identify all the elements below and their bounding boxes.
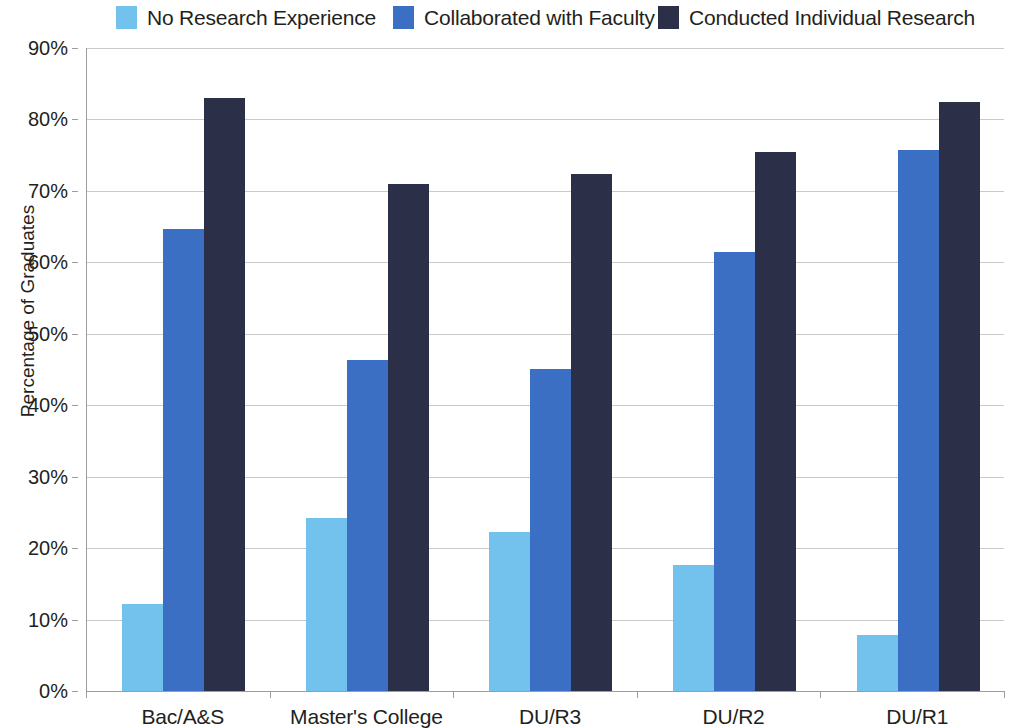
x-axis: Bac/A&SMaster's CollegeDU/R3DU/R2DU/R1 xyxy=(86,691,1004,728)
legend-item-0[interactable]: No Research Experience xyxy=(116,6,376,29)
legend-item-1[interactable]: Collaborated with Faculty xyxy=(393,6,655,29)
bar-0-1[interactable] xyxy=(163,229,204,691)
bar-1-2[interactable] xyxy=(388,184,429,691)
x-tick-mark-0 xyxy=(86,691,87,698)
legend-label-2: Conducted Individual Research xyxy=(689,6,975,29)
x-tick-mark-4 xyxy=(820,691,821,698)
bar-2-0[interactable] xyxy=(489,532,530,691)
legend-label-1: Collaborated with Faculty xyxy=(424,6,655,29)
x-tick-mark-end xyxy=(1004,691,1005,698)
y-tick-mark-1 xyxy=(72,620,78,621)
y-tick-mark-3 xyxy=(72,477,78,478)
legend-swatch-icon-2 xyxy=(658,6,679,29)
bar-group-0 xyxy=(87,48,271,691)
bar-series-container xyxy=(87,48,1004,691)
bar-3-0[interactable] xyxy=(673,565,714,691)
plot-area xyxy=(86,48,1004,691)
x-tick-label-3: DU/R2 xyxy=(703,705,765,728)
legend-swatch-icon-0 xyxy=(116,6,137,29)
bar-2-1[interactable] xyxy=(530,369,571,691)
x-tick-label-4: DU/R1 xyxy=(886,705,948,728)
bar-1-1[interactable] xyxy=(347,360,388,692)
y-axis: 0%10%20%30%40%50%60%70%80%90% xyxy=(0,48,78,691)
bar-group-1 xyxy=(271,48,455,691)
bar-4-1[interactable] xyxy=(898,150,939,691)
x-tick-mark-2 xyxy=(453,691,454,698)
bar-1-0[interactable] xyxy=(306,518,347,691)
y-tick-label-0: 0% xyxy=(39,680,68,703)
y-tick-label-1: 10% xyxy=(28,608,68,631)
bar-0-2[interactable] xyxy=(204,98,245,691)
bar-3-2[interactable] xyxy=(755,152,796,691)
x-tick-label-1: Master's College xyxy=(290,705,443,728)
chart-legend: No Research ExperienceCollaborated with … xyxy=(0,0,1012,38)
legend-swatch-icon-1 xyxy=(393,6,414,29)
x-tick-label-0: Bac/A&S xyxy=(141,705,224,728)
y-tick-mark-8 xyxy=(72,119,78,120)
bar-group-2 xyxy=(454,48,638,691)
y-tick-mark-7 xyxy=(72,191,78,192)
y-tick-mark-5 xyxy=(72,334,78,335)
y-tick-mark-4 xyxy=(72,405,78,406)
legend-label-0: No Research Experience xyxy=(147,6,376,29)
bar-2-2[interactable] xyxy=(571,174,612,691)
y-tick-mark-2 xyxy=(72,548,78,549)
y-tick-mark-0 xyxy=(72,691,78,692)
x-tick-mark-1 xyxy=(270,691,271,698)
bar-group-3 xyxy=(638,48,822,691)
y-axis-title: Percentage of Graduates xyxy=(17,51,39,571)
legend-item-2[interactable]: Conducted Individual Research xyxy=(658,6,975,29)
x-tick-mark-3 xyxy=(637,691,638,698)
y-tick-mark-6 xyxy=(72,262,78,263)
bar-group-4 xyxy=(821,48,1005,691)
bar-0-0[interactable] xyxy=(122,604,163,691)
bar-3-1[interactable] xyxy=(714,252,755,691)
bar-4-2[interactable] xyxy=(939,102,980,691)
x-tick-label-2: DU/R3 xyxy=(519,705,581,728)
y-tick-mark-9 xyxy=(72,48,78,49)
bar-4-0[interactable] xyxy=(857,635,898,691)
